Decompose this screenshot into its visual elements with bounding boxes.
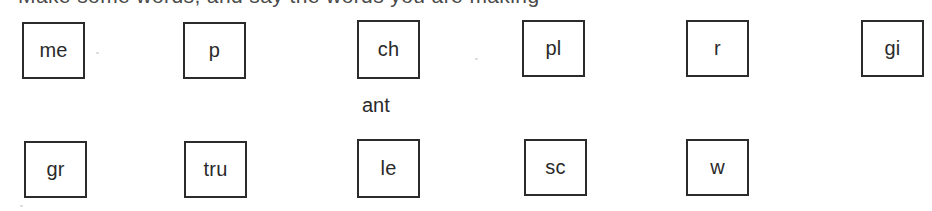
word-box-le[interactable]: le [357, 139, 420, 198]
word-box-sc[interactable]: sc [524, 139, 587, 196]
clipped-instruction-band: Make some words, and say the words you a… [0, 0, 932, 11]
word-box-p[interactable]: p [183, 22, 246, 79]
word-box-label: p [209, 40, 220, 60]
word-box-label: gi [885, 38, 901, 58]
word-box-label: tru [204, 159, 228, 179]
word-box-gi[interactable]: gi [861, 20, 924, 77]
word-box-me[interactable]: me [22, 22, 85, 79]
scan-speckle [20, 205, 23, 207]
word-box-label: pl [546, 38, 562, 58]
scan-speckle [96, 52, 99, 54]
word-box-label: me [39, 40, 67, 60]
word-box-label: w [710, 157, 725, 177]
word-box-label: r [714, 38, 721, 58]
worksheet-canvas: Make some words, and say the words you a… [0, 0, 932, 211]
word-box-label: gr [46, 159, 64, 179]
loose-word-ant: ant [362, 95, 390, 115]
clipped-instruction-text: Make some words, and say the words you a… [18, 0, 540, 8]
word-box-label: sc [545, 157, 565, 177]
word-box-gr[interactable]: gr [24, 141, 87, 198]
word-box-tru[interactable]: tru [184, 141, 247, 198]
word-box-w[interactable]: w [686, 139, 749, 196]
word-box-label: ch [378, 39, 400, 59]
word-box-label: le [381, 158, 397, 178]
word-box-pl[interactable]: pl [522, 20, 585, 77]
scan-speckle [475, 58, 478, 60]
word-box-r[interactable]: r [686, 20, 749, 77]
word-box-ch[interactable]: ch [357, 20, 420, 79]
